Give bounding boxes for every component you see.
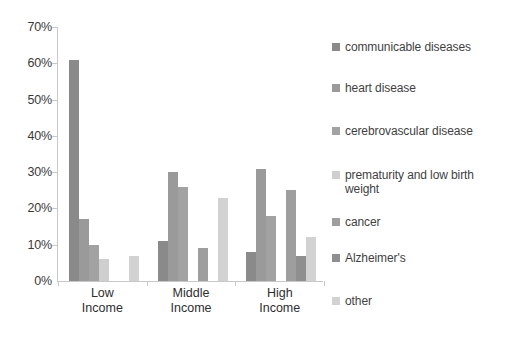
x-axis-category-label-line: Low [58,286,147,301]
legend-item[interactable]: heart disease [332,81,504,95]
legend-item-label: prematurity and low birth weight [345,168,504,196]
bar [266,216,276,281]
legend-item[interactable]: prematurity and low birth weight [332,168,504,196]
bar [246,252,256,281]
legend-swatch-icon [332,297,340,305]
bar [256,169,266,281]
legend-item[interactable]: other [332,294,504,308]
legend-item[interactable]: cancer [332,215,504,229]
bar [89,245,99,281]
bar [69,60,79,281]
bar [178,187,188,281]
bar [158,241,168,281]
bar [129,256,139,281]
legend-item-label: communicable diseases [345,40,471,54]
legend-item[interactable]: communicable diseases [332,40,504,54]
legend-swatch-icon [332,43,340,51]
legend-item-label: other [345,294,372,308]
x-axis-category-label-line: Income [147,301,236,316]
bar [286,190,296,281]
x-axis-category-label-line: Income [235,301,324,316]
legend-item[interactable]: Alzheimer's [332,251,504,265]
bar [198,248,208,281]
x-axis-category-label: HighIncome [235,286,324,316]
bar-chart: 0%10%20%30%40%50%60%70% LowIncomeMiddleI… [0,0,506,344]
plot-area: 0%10%20%30%40%50%60%70% LowIncomeMiddleI… [0,0,330,344]
bar [168,172,178,281]
x-axis-category-label-line: Income [58,301,147,316]
x-axis-category-label: MiddleIncome [147,286,236,316]
legend-item-label: heart disease [345,81,416,95]
legend-item-label: cancer [345,215,380,229]
x-axis-category-label-line: High [235,286,324,301]
x-axis-category-label: LowIncome [58,286,147,316]
x-axis-category-label-line: Middle [147,286,236,301]
legend-item[interactable]: cerebrovascular disease [332,124,504,138]
bar [306,237,316,281]
legend-item-label: Alzheimer's [345,251,406,265]
chart-legend: communicable diseasesheart diseasecerebr… [332,0,506,344]
legend-item-label: cerebrovascular disease [345,124,473,138]
legend-swatch-icon [332,254,340,262]
legend-swatch-icon [332,171,340,179]
bar [218,198,228,281]
bar [296,256,306,281]
bar [99,259,109,281]
legend-swatch-icon [332,218,340,226]
bar [79,219,89,281]
legend-swatch-icon [332,127,340,135]
legend-swatch-icon [332,84,340,92]
